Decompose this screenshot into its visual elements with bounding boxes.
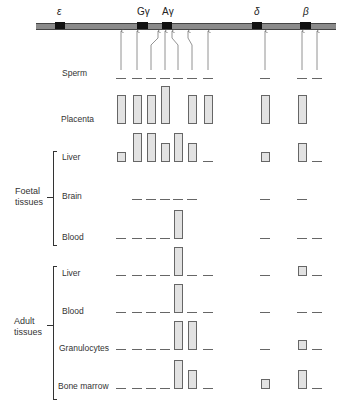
absent-site-dash [132,388,142,389]
row-label-foetal-brain: Brain [62,191,82,201]
absent-site-dash [173,199,183,200]
hypersensitive-site-bar [261,95,270,124]
adult-tissues-tick [47,325,53,326]
hypersensitive-site-bar [261,152,270,162]
absent-site-dash [160,388,170,389]
absent-site-dash [312,238,322,239]
absent-site-dash [297,238,307,239]
absent-site-dash [116,388,126,389]
hypersensitive-site-bar [188,143,197,162]
hypersensitive-site-bar [174,321,183,350]
absent-site-dash [203,275,213,276]
hypersensitive-site-bar [174,133,183,162]
hypersensitive-site-bar [133,133,142,162]
absent-site-dash [312,161,322,162]
absent-site-dash [146,78,156,79]
absent-site-dash [187,78,197,79]
absent-site-dash [203,161,213,162]
hypersensitive-site-bar [174,247,183,276]
absent-site-dash [260,78,270,79]
hypersensitive-site-arrows [0,0,344,409]
hypersensitive-site-bar [147,133,156,162]
hypersensitive-site-bar [147,95,156,124]
absent-site-dash [312,275,322,276]
absent-site-dash [116,312,126,313]
row-label-foetal-blood: Blood [62,232,84,242]
hypersensitive-site-bar [174,210,183,239]
absent-site-dash [146,388,156,389]
row-label-granulocytes: Granulocytes [59,343,109,353]
hypersensitive-site-bar [204,95,213,124]
absent-site-dash [187,275,197,276]
foetal-tissues-bracket [53,151,57,246]
absent-site-dash [146,275,156,276]
absent-site-dash [146,238,156,239]
adult-tissues-bracket [53,266,57,400]
absent-site-dash [312,349,322,350]
hypersensitive-site-bar [188,321,197,350]
absent-site-dash [260,312,270,313]
absent-site-dash [116,349,126,350]
absent-site-dash [203,312,213,313]
absent-site-dash [132,199,142,200]
hypersensitive-site-bar [298,266,307,276]
absent-site-dash [203,388,213,389]
adult-tissues-label: Adulttissues [14,316,42,338]
hypersensitive-site-bar [188,95,197,124]
hypersensitive-site-bar [117,95,126,124]
absent-site-dash [187,312,197,313]
absent-site-dash [173,78,183,79]
absent-site-dash [187,199,197,200]
absent-site-dash [160,199,170,200]
absent-site-dash [203,78,213,79]
hypersensitive-site-bar [133,95,142,124]
absent-site-dash [312,388,322,389]
hypersensitive-site-bar [298,143,307,162]
absent-site-dash [160,349,170,350]
absent-site-dash [297,312,307,313]
absent-site-dash [160,275,170,276]
absent-site-dash [297,199,307,200]
row-label-adult-blood: Blood [62,306,84,316]
hypersensitive-site-bar [174,284,183,313]
hypersensitive-site-bar [298,340,307,350]
hypersensitive-site-bar [261,379,270,389]
absent-site-dash [260,349,270,350]
absent-site-dash [132,312,142,313]
foetal-tissues-label: Foetaltissues [15,186,43,208]
absent-site-dash [260,275,270,276]
hypersensitive-site-bar [161,86,170,124]
absent-site-dash [160,312,170,313]
row-label-adult-liver: Liver [62,268,80,278]
hypersensitive-site-bar [298,95,307,124]
absent-site-dash [312,78,322,79]
absent-site-dash [146,199,156,200]
absent-site-dash [132,238,142,239]
absent-site-dash [203,349,213,350]
hypersensitive-site-bar [298,370,307,389]
absent-site-dash [297,78,307,79]
hypersensitive-site-bar [188,370,197,389]
hypersensitive-site-bar [161,143,170,162]
hypersensitive-site-bar [174,360,183,389]
absent-site-dash [132,78,142,79]
absent-site-dash [260,199,270,200]
row-label-sperm: Sperm [62,68,87,78]
absent-site-dash [132,349,142,350]
row-label-foetal-liver: Liver [62,152,80,162]
absent-site-dash [160,238,170,239]
absent-site-dash [132,275,142,276]
absent-site-dash [260,238,270,239]
hypersensitive-site-bar [117,152,126,162]
absent-site-dash [312,312,322,313]
foetal-tissues-tick [47,197,53,198]
absent-site-dash [146,312,156,313]
absent-site-dash [116,78,126,79]
absent-site-dash [146,349,156,350]
absent-site-dash [116,275,126,276]
row-label-bone-marrow: Bone marrow [58,381,109,391]
absent-site-dash [116,238,126,239]
absent-site-dash [160,78,170,79]
row-label-placenta: Placenta [61,114,94,124]
